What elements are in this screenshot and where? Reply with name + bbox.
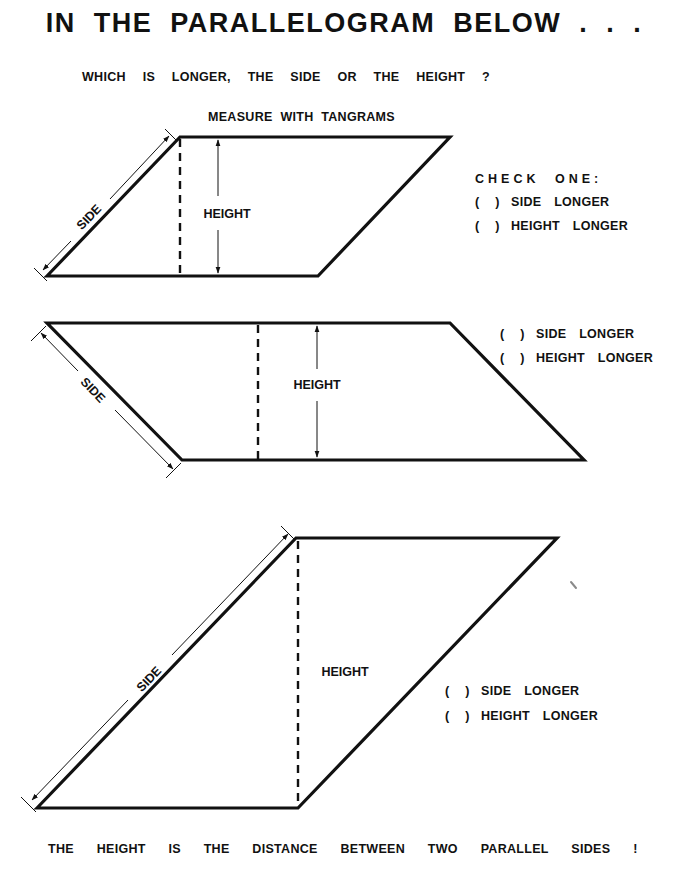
parallelogram-diagrams: HEIGHT SIDE HEIGHT SIDE HEIGHT: [0, 0, 688, 877]
footer-definition: THE HEIGHT IS THE DISTANCE BETWEEN TWO P…: [48, 842, 638, 856]
option-label: SIDE LONGER: [481, 684, 579, 698]
parallelogram-1-side-dimension-icon: [34, 129, 176, 281]
parallelogram-2-height-label: HEIGHT: [293, 378, 341, 392]
parallelogram-2-side-dimension-icon: [31, 326, 181, 478]
checkbox-paren[interactable]: ( ): [500, 327, 536, 341]
p2-option-height-longer[interactable]: ( ) HEIGHT LONGER: [500, 351, 653, 365]
p3-option-height-longer[interactable]: ( ) HEIGHT LONGER: [445, 709, 598, 723]
parallelogram-3-shape: [37, 538, 557, 808]
page-title: IN THE PARALLELOGRAM BELOW . . .: [0, 8, 688, 39]
option-label: HEIGHT LONGER: [536, 351, 653, 365]
parallelogram-3-side-dimension-icon: [21, 526, 295, 812]
check-one-heading: CHECK ONE:: [475, 172, 602, 186]
parallelogram-1-shape: [47, 137, 450, 276]
p3-option-side-longer[interactable]: ( ) SIDE LONGER: [445, 684, 579, 698]
parallelogram-1-side-label: SIDE: [74, 202, 104, 233]
smudge-mark: [571, 582, 576, 588]
question-text: WHICH IS LONGER, THE SIDE OR THE HEIGHT …: [82, 70, 490, 84]
parallelogram-3: HEIGHT SIDE: [21, 526, 557, 812]
checkbox-paren[interactable]: ( ): [475, 195, 511, 209]
p1-option-side-longer[interactable]: ( ) SIDE LONGER: [475, 195, 609, 209]
parallelogram-2: HEIGHT SIDE: [31, 323, 584, 478]
parallelogram-2-side-label: SIDE: [78, 375, 108, 406]
parallelogram-1: HEIGHT SIDE: [34, 129, 450, 281]
checkbox-paren[interactable]: ( ): [445, 709, 481, 723]
checkbox-paren[interactable]: ( ): [500, 351, 536, 365]
parallelogram-2-shape: [47, 323, 584, 460]
instruction-text: MEASURE WITH TANGRAMS: [208, 110, 395, 124]
option-label: HEIGHT LONGER: [481, 709, 598, 723]
option-label: HEIGHT LONGER: [511, 219, 628, 233]
p1-option-height-longer[interactable]: ( ) HEIGHT LONGER: [475, 219, 628, 233]
p2-option-side-longer[interactable]: ( ) SIDE LONGER: [500, 327, 634, 341]
option-label: SIDE LONGER: [536, 327, 634, 341]
option-label: SIDE LONGER: [511, 195, 609, 209]
checkbox-paren[interactable]: ( ): [445, 684, 481, 698]
parallelogram-1-height-label: HEIGHT: [203, 207, 251, 221]
checkbox-paren[interactable]: ( ): [475, 219, 511, 233]
parallelogram-3-side-label: SIDE: [134, 664, 164, 695]
parallelogram-3-height-label: HEIGHT: [321, 665, 369, 679]
